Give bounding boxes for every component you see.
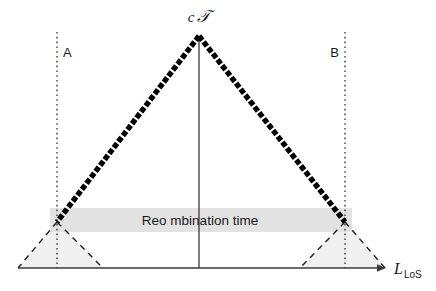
axis-label-subscript: LoS (404, 269, 422, 280)
cone-edge-right (199, 36, 345, 222)
cone-edge-left (57, 36, 199, 222)
recombination-band-label: Reo mbination time (142, 213, 258, 228)
apex-label-c: c (188, 9, 195, 25)
marker-label-a: A (63, 45, 72, 60)
apex-label-script-t: 𝒯 (197, 6, 215, 26)
apex-label: c 𝒯 (188, 6, 215, 26)
light-cone-figure: A B Reo mbination time c 𝒯 L LoS (0, 0, 436, 291)
axis-label: L LoS (393, 260, 422, 280)
diagram-canvas: A B Reo mbination time c 𝒯 L LoS (0, 0, 436, 291)
axis-label-symbol: L (393, 260, 403, 277)
marker-label-b: B (330, 45, 339, 60)
